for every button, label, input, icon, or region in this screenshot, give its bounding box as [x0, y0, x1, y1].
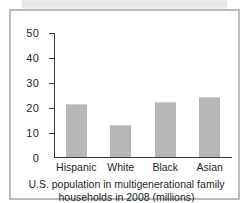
y-axis-tick-30 [49, 83, 55, 84]
bar-hispanic [66, 104, 87, 157]
y-tick-label-50: 50 [17, 28, 39, 39]
x-tick-label-hispanic: Hispanic [54, 161, 99, 173]
y-tick-label-0: 0 [17, 153, 39, 164]
bar-white [110, 125, 131, 157]
y-tick-label-30: 30 [17, 78, 39, 89]
y-axis-tick-50 [49, 33, 55, 34]
y-axis-tick-10 [49, 133, 55, 134]
chart-caption: U.S. population in multigenerational fam… [17, 178, 236, 202]
y-axis-tick-labels: 50 40 30 20 10 0 [17, 11, 39, 202]
y-tick-label-10: 10 [17, 128, 39, 139]
chart-caption-line-1: U.S. population in multigenerational fam… [17, 178, 236, 191]
bar-chart-plot-area: 50 40 30 20 10 0 Hispanic White Black As… [11, 11, 242, 202]
y-tick-label-40: 40 [17, 53, 39, 64]
chart-caption-line-2: households in 2008 (millions) [17, 191, 236, 203]
x-tick-label-white: White [99, 161, 144, 173]
bar-black [155, 102, 176, 157]
figure-frame: 50 40 30 20 10 0 Hispanic White Black As… [9, 9, 240, 200]
x-axis-line [54, 157, 232, 158]
page-bleed-artifact-top [22, 0, 227, 9]
y-axis-line [54, 33, 55, 158]
bar-asian [199, 97, 220, 157]
x-tick-label-black: Black [143, 161, 188, 173]
y-tick-label-20: 20 [17, 103, 39, 114]
y-axis-tick-40 [49, 58, 55, 59]
x-tick-label-asian: Asian [188, 161, 233, 173]
y-axis-tick-20 [49, 108, 55, 109]
